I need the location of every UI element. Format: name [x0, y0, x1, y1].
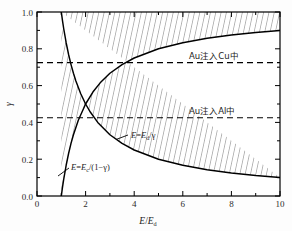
annotation-au-into-al: Au注入Al中	[189, 106, 235, 116]
x-tick-label: 6	[181, 199, 186, 209]
x-tick-label: 2	[83, 199, 88, 209]
y-tick-label: 1.0	[22, 8, 34, 18]
y-tick-label: 0.4	[22, 118, 34, 128]
y-tick-label: 0.0	[22, 192, 34, 202]
x-axis-title-subscript: d	[154, 220, 158, 227]
svg-text:E/Ed: E/Ed	[138, 216, 157, 227]
x-tick-label: 8	[229, 199, 234, 209]
chart-figure: 0.0 0.2 0.4 0.6 0.8 1.0 0 2 4 6 8 10 γ E…	[0, 0, 292, 231]
y-tick-label: 0.2	[22, 155, 33, 165]
curve-label-ec-tail: /(1−γ)	[89, 162, 110, 172]
x-axis-title: E/Ed	[138, 216, 157, 227]
x-tick-label: 10	[276, 199, 286, 209]
x-tick-labels: 0 2 4 6 8 10	[35, 199, 285, 209]
y-tick-label: 0.8	[22, 44, 34, 54]
y-axis-title: γ	[4, 102, 14, 106]
annotation-au-into-cu: Au注入Cu中	[189, 51, 239, 61]
x-tick-label: 4	[132, 199, 137, 209]
svg-text:E=Ec/(1−γ): E=Ec/(1−γ)	[70, 162, 110, 173]
y-tick-label: 0.6	[22, 81, 34, 91]
plot-canvas: 0.0 0.2 0.4 0.6 0.8 1.0 0 2 4 6 8 10 γ E…	[0, 0, 292, 231]
svg-text:E=Ed/γ: E=Ed/γ	[130, 130, 156, 141]
curve-label-ed-tail: /γ	[149, 130, 155, 140]
x-tick-label: 0	[35, 199, 40, 209]
y-tick-labels: 0.0 0.2 0.4 0.6 0.8 1.0	[22, 8, 34, 202]
